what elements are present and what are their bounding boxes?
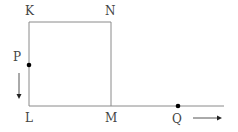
arrow-right-icon — [193, 116, 222, 121]
label-N: N — [105, 4, 116, 18]
diagram-canvas: K N P L M Q — [0, 0, 238, 132]
arrow-down-icon — [17, 73, 22, 99]
label-L: L — [25, 111, 33, 125]
label-P: P — [13, 50, 21, 64]
label-M: M — [105, 111, 117, 125]
label-Q: Q — [172, 112, 182, 126]
point-P-dot — [27, 63, 32, 68]
label-K: K — [25, 4, 35, 18]
point-Q-dot — [176, 104, 181, 109]
